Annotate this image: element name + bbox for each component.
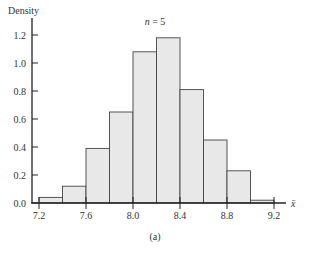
chart-title: n = 5 — [145, 16, 166, 27]
x-tick-label: 9.2 — [268, 210, 281, 221]
histogram-chart: 0.00.20.40.60.81.01.2 7.27.68.08.48.89.2… — [0, 0, 310, 259]
histogram-bar — [63, 186, 87, 203]
y-axis-label: Density — [8, 5, 39, 16]
histogram-bar — [86, 148, 110, 203]
y-tick-label: 0.8 — [14, 86, 27, 97]
x-axis-label: x̄ — [290, 198, 296, 209]
histogram-bar — [133, 52, 157, 203]
figure-caption: (a) — [149, 231, 160, 243]
x-tick-label: 7.2 — [33, 210, 46, 221]
histogram-bars — [39, 38, 274, 203]
x-tick-label: 8.4 — [174, 210, 187, 221]
histogram-bar — [39, 197, 63, 203]
histogram-bar — [157, 38, 181, 203]
histogram-bar — [180, 90, 204, 203]
y-ticks: 0.00.20.40.60.81.01.2 — [14, 30, 39, 209]
x-tick-label: 8.8 — [221, 210, 234, 221]
x-tick-label: 8.0 — [127, 210, 140, 221]
y-tick-label: 0.4 — [14, 142, 27, 153]
histogram-bar — [227, 171, 251, 203]
histogram-bar — [204, 140, 228, 203]
y-tick-label: 0.0 — [14, 198, 27, 209]
y-tick-label: 0.2 — [14, 170, 27, 181]
y-tick-label: 1.2 — [14, 30, 27, 41]
y-tick-label: 0.6 — [14, 114, 27, 125]
x-tick-label: 7.6 — [80, 210, 93, 221]
y-tick-label: 1.0 — [14, 58, 27, 69]
histogram-bar — [110, 112, 134, 203]
